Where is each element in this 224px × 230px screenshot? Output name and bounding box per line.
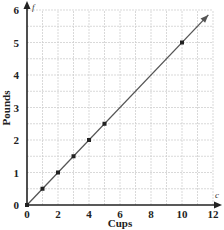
data-series: [25, 15, 208, 207]
x-variable-label: c: [215, 190, 219, 200]
data-point: [56, 171, 60, 175]
pounds-vs-cups-chart: 0246810120123456 Cups Pounds c f: [0, 0, 224, 230]
y-axis-label: Pounds: [0, 90, 12, 126]
data-point: [25, 203, 29, 207]
x-tick-label: 8: [148, 208, 154, 220]
y-tick-label: 4: [14, 69, 20, 81]
x-tick-label: 4: [86, 208, 92, 220]
x-tick-label: 2: [55, 208, 61, 220]
data-point: [41, 187, 45, 191]
y-tick-label: 6: [14, 4, 20, 16]
y-tick-label: 0: [14, 199, 20, 211]
y-variable-label: f: [32, 2, 36, 12]
y-axis-arrow-icon: [24, 1, 31, 9]
x-tick-label: 12: [208, 208, 220, 220]
data-point: [72, 154, 76, 158]
data-point: [87, 138, 91, 142]
y-tick-label: 2: [14, 134, 20, 146]
data-point: [180, 41, 184, 45]
x-axis-label: Cups: [108, 217, 133, 229]
x-tick-label: 0: [24, 208, 30, 220]
x-tick-label: 10: [177, 208, 189, 220]
y-tick-label: 5: [14, 37, 20, 49]
y-tick-label: 3: [14, 102, 20, 114]
data-point: [103, 122, 107, 126]
y-tick-label: 1: [14, 167, 20, 179]
